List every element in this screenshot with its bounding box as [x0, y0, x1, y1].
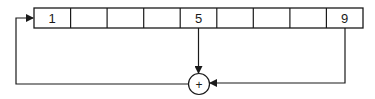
lfsr-diagram: 1 5 9 + [0, 0, 375, 99]
adder: + [189, 74, 210, 95]
shift-register: 1 5 9 [34, 8, 363, 28]
register-cell-5: 5 [195, 11, 202, 26]
register-cell-1: 1 [48, 11, 55, 26]
register-cell-9: 9 [341, 11, 348, 26]
tap-arrow-cell-9 [210, 28, 345, 83]
plus-icon: + [195, 78, 202, 92]
